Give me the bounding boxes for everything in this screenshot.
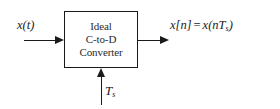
arrow-right-icon-input — [55, 36, 64, 44]
output-label-expr-open: x(n — [203, 18, 219, 32]
output-label-expr-sym: T — [219, 18, 226, 32]
arrow-up-icon-clock — [97, 68, 105, 77]
sampling-period-wire — [101, 76, 102, 105]
input-signal-label: x(t) — [17, 18, 34, 33]
input-label-arg: (t) — [23, 18, 35, 32]
diagram-canvas: x(t) Ideal C-to-D Converter x[n]=x(nTs) … — [0, 0, 280, 109]
block-line-1: Ideal — [90, 20, 111, 33]
output-signal-label: x[n]=x(nTs) — [170, 18, 233, 33]
output-label-discrete: x[n] — [170, 18, 192, 32]
output-label-equals: = — [192, 18, 203, 32]
clock-label-sub: s — [112, 90, 115, 99]
ideal-c-to-d-converter-block: Ideal C-to-D Converter — [64, 11, 138, 68]
block-line-3: Converter — [79, 46, 122, 59]
sampling-period-label: Ts — [105, 83, 115, 99]
arrow-right-icon-output — [160, 36, 169, 44]
input-signal-wire — [24, 40, 56, 41]
block-line-2: C-to-D — [86, 33, 117, 46]
output-label-expr-close: ) — [229, 18, 233, 32]
